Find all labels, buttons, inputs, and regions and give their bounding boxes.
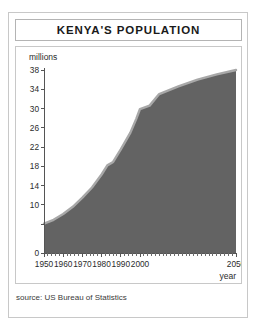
svg-text:10: 10: [30, 200, 40, 210]
chart-title-box: KENYA'S POPULATION: [15, 19, 242, 41]
plot-panel: millions 0101418222630343819501960197019…: [15, 46, 242, 284]
svg-text:2000: 2000: [131, 259, 150, 269]
svg-text:1970: 1970: [73, 259, 92, 269]
svg-text:1980: 1980: [92, 259, 111, 269]
svg-text:22: 22: [30, 142, 40, 152]
svg-text:1960: 1960: [54, 259, 73, 269]
x-axis-title: year: [219, 271, 236, 281]
svg-text:34: 34: [30, 84, 40, 94]
svg-text:18: 18: [30, 161, 40, 171]
svg-text:0: 0: [34, 248, 39, 258]
svg-text:1990: 1990: [112, 259, 131, 269]
svg-text:1950: 1950: [35, 259, 54, 269]
svg-text:2050: 2050: [227, 259, 241, 269]
svg-text:30: 30: [30, 104, 40, 114]
svg-text:26: 26: [30, 123, 40, 133]
svg-text:38: 38: [30, 65, 40, 75]
page-title: KENYA'S POPULATION: [57, 24, 201, 36]
source-caption: source: US Bureau of Statistics: [16, 293, 127, 302]
area-chart-svg: 0101418222630343819501960197019801990200…: [16, 47, 241, 283]
figure-card: KENYA'S POPULATION millions 010141822263…: [8, 12, 248, 318]
svg-text:14: 14: [30, 181, 40, 191]
